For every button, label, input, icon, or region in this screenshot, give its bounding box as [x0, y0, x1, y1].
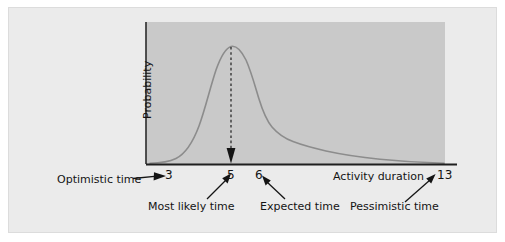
- x-axis-title: Activity duration: [333, 170, 424, 183]
- x-tick-label-6: 6: [255, 168, 263, 182]
- x-tick-label-13: 13: [437, 168, 452, 182]
- expected-time-arrow: [262, 176, 285, 199]
- x-tick-label-5: 5: [227, 168, 235, 182]
- callout-expected-time: Expected time: [260, 200, 340, 213]
- callout-optimistic-time: Optimistic time: [57, 173, 141, 186]
- figure-root: polygon { fill: #141414; } Probability 3…: [0, 0, 505, 242]
- y-axis-title: Probability: [141, 61, 154, 119]
- callout-pessimistic-time: Pessimistic time: [350, 200, 439, 213]
- callout-most-likely-time: Most likely time: [148, 200, 235, 213]
- x-tick-label-3: 3: [165, 168, 173, 182]
